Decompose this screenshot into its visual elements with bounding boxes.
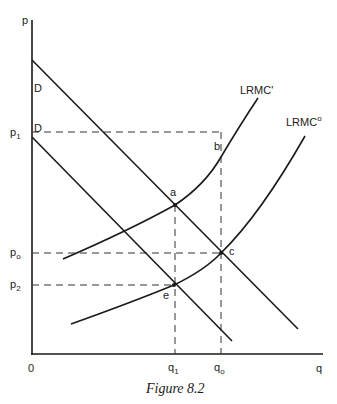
point-e-marker bbox=[172, 283, 176, 287]
x-axis-label: q bbox=[316, 362, 322, 374]
point-a-marker bbox=[173, 203, 177, 207]
lrmc-zero-label: LRMCo bbox=[286, 114, 322, 128]
lrmc-prime-curve bbox=[63, 98, 258, 259]
point-c-label: c bbox=[229, 245, 235, 257]
lrmc-prime-label: LRMC' bbox=[240, 84, 273, 96]
point-a-label: a bbox=[170, 186, 177, 198]
demand-upper-label: D bbox=[34, 82, 42, 94]
price-tick-p1: p1 bbox=[10, 126, 21, 141]
point-b-label: b bbox=[214, 140, 220, 152]
demand-lower-label: D bbox=[34, 122, 42, 134]
price-tick-p2: p2 bbox=[10, 278, 21, 293]
quantity-tick-q1: q1 bbox=[168, 361, 179, 376]
demand-curve-lower bbox=[32, 137, 232, 341]
supply-demand-diagram: p 0 q D D LRMC' LRMCo a b c e p1 po p2 q… bbox=[0, 0, 337, 404]
y-axis-label: p bbox=[22, 14, 28, 26]
figure-caption: Figure 8.2 bbox=[145, 381, 205, 396]
quantity-tick-qo: qo bbox=[214, 361, 225, 376]
point-c-marker bbox=[219, 251, 223, 255]
price-tick-po: po bbox=[10, 246, 21, 261]
origin-label: 0 bbox=[28, 362, 34, 374]
point-e-label: e bbox=[163, 289, 169, 301]
